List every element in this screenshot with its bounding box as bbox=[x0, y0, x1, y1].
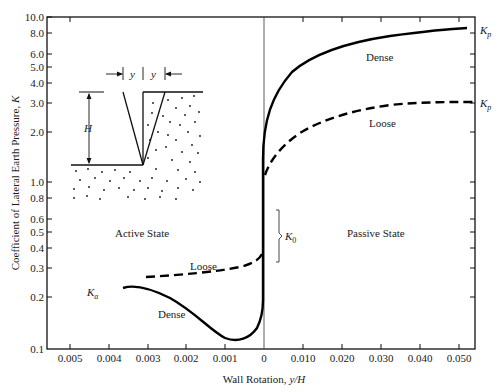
dense-curve-active bbox=[123, 286, 263, 339]
svg-text:5.0: 5.0 bbox=[30, 61, 44, 73]
inset-y-left-label: y bbox=[129, 68, 135, 80]
svg-text:2.0: 2.0 bbox=[30, 126, 44, 138]
x-tick-labels: 0.005 0.004 0.003 0.002 0.001 0 0.010 0.… bbox=[58, 352, 472, 364]
y-axis-ticks-right bbox=[470, 33, 475, 297]
svg-text:8.0: 8.0 bbox=[30, 27, 44, 39]
svg-text:0.4: 0.4 bbox=[30, 242, 44, 254]
svg-text:0.2: 0.2 bbox=[30, 291, 44, 303]
svg-text:3.0: 3.0 bbox=[30, 97, 44, 109]
x-axis-ticks bbox=[70, 344, 459, 349]
y-axis-label: Coefficient of Lateral Earth Pressure, K bbox=[9, 95, 21, 270]
inset-y-right-label: y bbox=[150, 68, 156, 80]
kp-dense-label: Kp bbox=[479, 24, 491, 39]
svg-text:0.020: 0.020 bbox=[330, 352, 355, 364]
y-axis-ticks bbox=[47, 17, 52, 297]
svg-text:0.001: 0.001 bbox=[213, 352, 238, 364]
loose-active-label: Loose bbox=[190, 260, 217, 272]
x-axis-label: Wall Rotation, y/H bbox=[223, 373, 307, 385]
svg-text:0.005: 0.005 bbox=[58, 352, 83, 364]
x-axis-ticks-top bbox=[70, 17, 459, 22]
svg-text:6.0: 6.0 bbox=[30, 48, 44, 60]
dense-curve-passive bbox=[263, 28, 467, 300]
svg-text:0.8: 0.8 bbox=[30, 192, 44, 204]
inset-h-label: H bbox=[83, 122, 93, 134]
svg-text:0.1: 0.1 bbox=[30, 343, 44, 355]
svg-text:1.0: 1.0 bbox=[30, 176, 44, 188]
svg-text:10.0: 10.0 bbox=[25, 11, 45, 23]
dense-active-label: Dense bbox=[158, 308, 186, 320]
svg-text:0.030: 0.030 bbox=[369, 352, 394, 364]
dense-passive-label: Dense bbox=[366, 51, 394, 63]
passive-state-label: Passive State bbox=[347, 227, 405, 239]
loose-passive-label: Loose bbox=[369, 117, 396, 129]
svg-text:0.002: 0.002 bbox=[174, 352, 199, 364]
svg-text:0: 0 bbox=[261, 352, 267, 364]
svg-text:0.5: 0.5 bbox=[30, 226, 44, 238]
svg-text:0.003: 0.003 bbox=[136, 352, 161, 364]
y-tick-labels: 10.0 8.0 6.0 5.0 4.0 3.0 2.0 1.0 0.8 0.6… bbox=[25, 11, 45, 355]
kp-loose-label: Kp bbox=[479, 97, 491, 112]
ka-label: Ka bbox=[86, 286, 98, 301]
k0-bracket bbox=[276, 210, 282, 262]
loose-curve-passive bbox=[265, 102, 474, 175]
svg-text:0.004: 0.004 bbox=[97, 352, 122, 364]
earth-pressure-chart: 10.0 8.0 6.0 5.0 4.0 3.0 2.0 1.0 0.8 0.6… bbox=[0, 0, 499, 392]
k0-label: K0 bbox=[284, 230, 296, 245]
soil-dots bbox=[73, 95, 201, 200]
svg-text:0.050: 0.050 bbox=[447, 352, 472, 364]
svg-text:0.040: 0.040 bbox=[408, 352, 433, 364]
svg-text:0.010: 0.010 bbox=[291, 352, 316, 364]
wall-rotation-inset-diagram: H y y bbox=[71, 67, 203, 200]
svg-text:0.6: 0.6 bbox=[30, 213, 44, 225]
svg-text:4.0: 4.0 bbox=[30, 77, 44, 89]
active-state-label: Active State bbox=[115, 227, 169, 239]
svg-text:0.3: 0.3 bbox=[30, 262, 44, 274]
plot-frame bbox=[47, 17, 475, 349]
